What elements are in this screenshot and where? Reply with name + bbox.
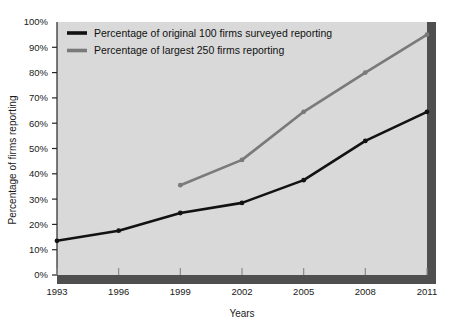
y-tick-label: 80% bbox=[29, 67, 49, 78]
y-tick-label: 20% bbox=[29, 219, 49, 230]
plot-right-shadow bbox=[427, 22, 436, 284]
legend-label: Percentage of largest 250 firms reportin… bbox=[94, 44, 284, 56]
line-chart: 0%10%20%30%40%50%60%70%80%90%100% 199319… bbox=[0, 0, 449, 324]
y-tick-label: 100% bbox=[24, 16, 49, 27]
plot-bottom-shadow bbox=[57, 275, 436, 284]
series-data-point bbox=[240, 157, 245, 162]
x-tick-label: 2011 bbox=[417, 286, 437, 297]
series-data-point bbox=[425, 32, 430, 37]
x-axis-title: Years bbox=[229, 308, 254, 319]
legend-label: Percentage of original 100 firms surveye… bbox=[94, 27, 332, 39]
series-data-point bbox=[55, 238, 60, 243]
y-tick-label: 70% bbox=[29, 92, 49, 103]
x-tick-label: 1996 bbox=[108, 286, 129, 297]
y-tick-label: 30% bbox=[29, 194, 49, 205]
x-tick-label: 2005 bbox=[293, 286, 314, 297]
x-tick-label: 2008 bbox=[355, 286, 376, 297]
y-tick-label: 40% bbox=[29, 168, 49, 179]
y-tick-label: 0% bbox=[34, 269, 48, 280]
series-data-point bbox=[178, 211, 183, 216]
series-data-point bbox=[301, 178, 306, 183]
chart-figure: 0%10%20%30%40%50%60%70%80%90%100% 199319… bbox=[0, 0, 449, 324]
y-tick-label: 50% bbox=[29, 143, 49, 154]
series-data-point bbox=[363, 70, 368, 75]
series-data-point bbox=[178, 183, 183, 188]
series-data-point bbox=[240, 201, 245, 206]
series-data-point bbox=[425, 109, 430, 114]
series-data-point bbox=[363, 139, 368, 144]
x-tick-label: 2002 bbox=[231, 286, 252, 297]
y-axis-title: Percentage of firms reporting bbox=[7, 96, 18, 225]
x-tick-label: 1999 bbox=[170, 286, 191, 297]
series-data-point bbox=[116, 228, 121, 233]
y-tick-label: 10% bbox=[29, 244, 49, 255]
plot-area-background bbox=[57, 22, 427, 275]
y-tick-label: 60% bbox=[29, 118, 49, 129]
y-tick-label: 90% bbox=[29, 42, 49, 53]
x-tick-label: 1993 bbox=[46, 286, 67, 297]
series-data-point bbox=[301, 109, 306, 114]
